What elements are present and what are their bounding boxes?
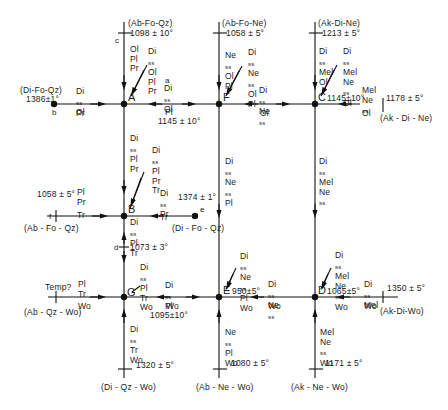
temp-label-left-g: Temp? <box>45 283 72 293</box>
edge-label-d-diag: DissMelNessWo <box>335 251 349 312</box>
temp-label-right-c: 1178 ± 5° <box>386 94 424 104</box>
edge-label-c-right-below: Ol <box>362 109 371 119</box>
edge-label-a-left-below: Pr <box>76 109 85 119</box>
edge-label-c-top: DissMelOl <box>319 47 333 87</box>
point-d: D <box>318 285 326 296</box>
temp-label-ge: 1095±10° <box>150 311 188 321</box>
system-label-bottom-d: (Ak - Ne - Wo) <box>291 383 348 393</box>
letter-e: e <box>200 205 204 214</box>
point-c: C <box>318 92 326 103</box>
edge-label-fc-below: Ol <box>260 109 269 119</box>
temp-label-bg: 1073 ± 3° <box>130 243 168 253</box>
edge-label-e-diag: DissNessPlWo <box>240 252 253 313</box>
point-b: B <box>128 204 135 215</box>
system-label-right-c: (Ak - Di - Ne) <box>380 114 432 124</box>
edge-label-fe: DissNessPl <box>225 157 236 209</box>
temp-label-bottom-g: 1320 ± 5° <box>136 361 174 371</box>
edge-label-g-diag: DissPlTrWo <box>140 263 153 313</box>
reaction-network-lines <box>0 0 448 410</box>
system-label-right-b: (Di - Fo - Qz) <box>172 224 224 234</box>
system-label-bottom-e: (Ab - Ne - Wo) <box>196 383 253 393</box>
temp-label-top-f: 1058 ± 5° <box>226 29 264 39</box>
temp-label-right-d: 1350 ± 5° <box>387 284 425 294</box>
temp-label-top-a: 1098 ± 10° <box>130 29 173 39</box>
edge-label-a-diag: DissOlPlPr <box>148 47 157 97</box>
system-label-bottom-g: (Di - Qz - Wo) <box>101 383 156 393</box>
temp-label-top-c: 1213 ± 5° <box>322 29 360 39</box>
edge-label-b-left-below: Tr <box>77 211 85 221</box>
system-label-right-d: (Ak-Di-Wo) <box>380 307 424 317</box>
temp-label-bottom-e: 1080 ± 5° <box>231 359 269 369</box>
temp-label-af: 1145 ± 10° <box>158 117 201 127</box>
temp-label-e: 950±5° <box>232 287 260 297</box>
point-f: F <box>223 92 230 103</box>
edge-label-g-left: PlTr <box>78 280 86 299</box>
edge-label-fc: DissNess <box>259 86 270 128</box>
edge-label-f-top: NessOlPl <box>225 51 236 91</box>
temp-label-left-b: 1058 ± 5° <box>37 190 75 200</box>
temp-label-bottom-d: 1171 ± 5° <box>325 359 363 369</box>
temp-label-right-b: 1374 ± 1° <box>178 193 216 203</box>
letter-f: f <box>49 212 51 221</box>
letter-d: d <box>114 243 118 252</box>
edge-label-g-bottom: DissTrWo <box>130 325 143 365</box>
edge-label-d-right-below: Wo <box>364 302 377 312</box>
point-e: E <box>223 285 230 296</box>
edge-label-b-right-below: Tr <box>160 213 168 223</box>
point-g: G <box>127 287 136 298</box>
edge-label-cd: DissMelNess <box>319 157 333 209</box>
edge-label-a-top: OlPlPr <box>130 45 139 74</box>
edge-label-ed-below: Wo <box>268 302 281 312</box>
edge-label-ab: DissPlPr <box>130 134 139 174</box>
system-label-left-g: (Ab - Qz - Wo) <box>24 308 81 318</box>
edge-label-b-left: PlPr <box>77 188 86 207</box>
temp-label-c: 1145±10° <box>327 94 364 104</box>
system-label-left-b: (Ab - Fo - Qz) <box>24 224 79 234</box>
temp-label-left-a: 1386±1° <box>26 95 59 105</box>
edge-label-f-diag: DissNessOlPl <box>248 48 259 109</box>
letter-c: c <box>115 36 119 45</box>
temp-label-d: 1065±5° <box>327 287 360 297</box>
point-a: A <box>128 92 135 103</box>
letter-b: b <box>52 108 56 117</box>
